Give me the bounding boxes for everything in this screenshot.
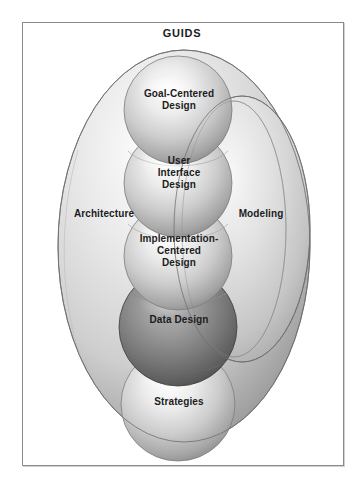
sphere-goal-centered-design	[124, 56, 232, 164]
guids-diagram: GUIDS Goal-Centered Design User Interfac…	[0, 0, 364, 491]
goal-centered-design-circle	[124, 56, 232, 164]
diagram-artwork	[0, 0, 364, 491]
goal-centered-highlight	[138, 76, 198, 100]
